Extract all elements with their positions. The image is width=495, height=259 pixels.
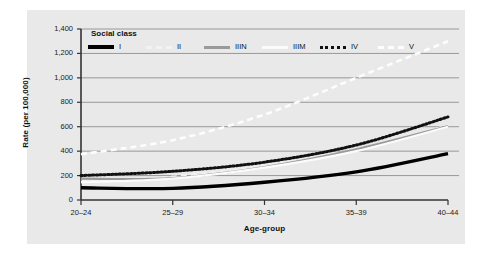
x-tick-label: 30–34: [235, 208, 295, 217]
x-tick-label: 20–24: [51, 208, 111, 217]
chart-figure: Rate (per 100,000) Age-group 02004006008…: [0, 0, 495, 259]
y-tick-label: 400: [33, 146, 73, 155]
legend-label-ii: II: [177, 42, 181, 51]
legend-label-iv: IV: [351, 42, 358, 51]
legend-label-v: V: [409, 42, 414, 51]
legend-label-i: I: [119, 42, 121, 51]
y-tick-label: 800: [33, 97, 73, 106]
legend-label-iiin: IIIN: [235, 42, 247, 51]
x-tick-label: 25–29: [143, 208, 203, 217]
y-tick-label: 200: [33, 171, 73, 180]
y-tick-label: 600: [33, 122, 73, 131]
legend-swatch-ii: [146, 46, 172, 55]
legend-swatch-iiin: [204, 46, 230, 55]
x-axis-title: Age-group: [81, 224, 448, 233]
legend-swatch-iiim: [262, 46, 288, 55]
y-axis-title: Rate (per 100,000): [21, 63, 30, 163]
series-line-i: [81, 154, 448, 189]
x-tick-label: 40–44: [418, 208, 478, 217]
legend-title: Social class: [91, 29, 137, 38]
x-tick-label: 35–39: [326, 208, 386, 217]
y-tick-label: 1,400: [33, 24, 73, 33]
chart-legend: Social class IIIIIINIIIMIVV: [88, 29, 443, 55]
legend-swatch-i: [88, 45, 114, 55]
data-series-group: [81, 41, 448, 188]
y-tick-label: 1,200: [33, 48, 73, 57]
y-tick-label: 0: [33, 195, 73, 204]
y-tick-label: 1,000: [33, 73, 73, 82]
legend-swatch-iv: [320, 46, 346, 55]
series-line-v: [81, 41, 448, 154]
legend-label-iiim: IIIM: [293, 42, 306, 51]
legend-swatch-v: [378, 46, 404, 55]
